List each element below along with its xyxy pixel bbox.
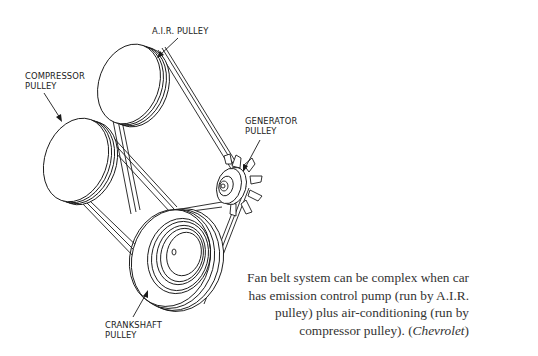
caption-line-2: has emission control pump (run by A.I.R. bbox=[219, 287, 469, 305]
caption-line-4-end: ) bbox=[465, 323, 469, 338]
compressor-pulley-label: COMPRESSOR PULLEY bbox=[25, 71, 85, 91]
generator-pulley-label: GENERATOR PULLEY bbox=[245, 116, 297, 136]
generator-pulley-label-line1: GENERATOR bbox=[245, 116, 297, 126]
air-pulley-label-text: A.I.R. PULLEY bbox=[152, 26, 208, 36]
compressor-pulley-label-line1: COMPRESSOR bbox=[25, 71, 85, 81]
arrow-air-pulley bbox=[157, 38, 178, 58]
compressor-pulley-label-line2: PULLEY bbox=[25, 81, 85, 91]
caption-line-4-text: compressor pulley). ( bbox=[299, 323, 412, 338]
air-pulley bbox=[87, 35, 180, 136]
generator-pulley-label-line2: PULLEY bbox=[245, 126, 297, 136]
compressor-pulley bbox=[32, 109, 129, 214]
figure-caption: Fan belt system can be complex when car … bbox=[219, 269, 469, 339]
crankshaft-pulley bbox=[119, 199, 235, 322]
caption-line-4: compressor pulley). (Chevrolet) bbox=[219, 322, 469, 340]
air-pulley-label: A.I.R. PULLEY bbox=[152, 26, 208, 36]
caption-line-1: Fan belt system can be complex when car bbox=[219, 269, 469, 287]
belt-air-to-generator bbox=[158, 47, 245, 180]
generator-pulley bbox=[213, 154, 262, 216]
crankshaft-pulley-label-line1: CRANKSHAFT bbox=[105, 320, 162, 330]
crankshaft-pulley-label: CRANKSHAFT PULLEY bbox=[105, 320, 162, 340]
caption-line-3: pulley) plus air-conditioning (run by bbox=[219, 304, 469, 322]
crankshaft-pulley-label-line2: PULLEY bbox=[105, 330, 162, 340]
arrow-compressor-pulley bbox=[44, 93, 62, 122]
caption-source-credit: Chevrolet bbox=[413, 323, 465, 338]
